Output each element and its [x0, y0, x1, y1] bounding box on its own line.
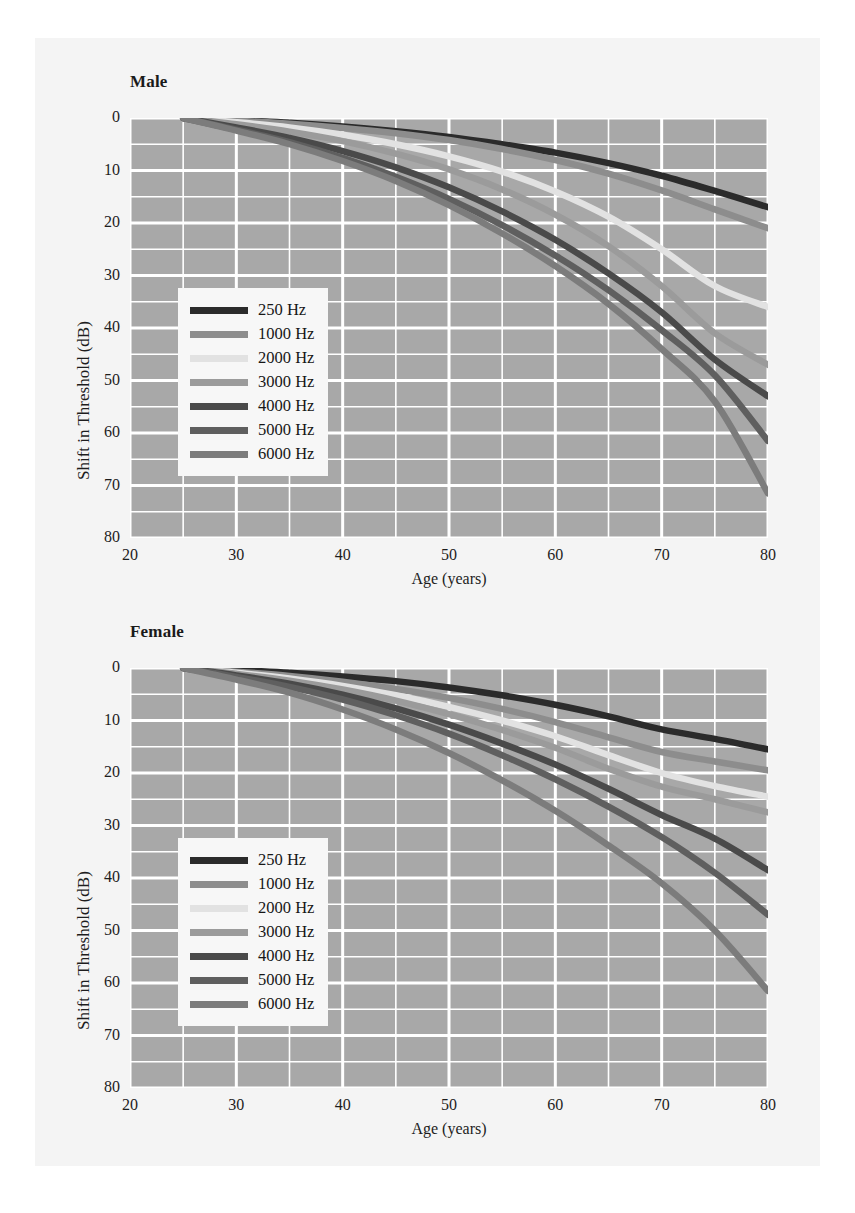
x-tick-male-3: 50: [419, 546, 479, 564]
legend-swatch-male-2: [190, 355, 248, 362]
x-axis-label-female: Age (years): [349, 1120, 549, 1138]
legend-label-male-4: 4000 Hz: [258, 398, 314, 415]
y-tick-female-2: 20: [68, 763, 120, 781]
legend-label-female-5: 5000 Hz: [258, 972, 314, 989]
legend-label-female-2: 2000 Hz: [258, 900, 314, 917]
x-tick-male-4: 60: [525, 546, 585, 564]
legend-item-female-3: 3000 Hz: [190, 920, 314, 944]
x-tick-male-2: 40: [313, 546, 373, 564]
legend-label-female-6: 6000 Hz: [258, 996, 314, 1013]
x-tick-male-0: 20: [100, 546, 160, 564]
legend-swatch-female-6: [190, 1001, 248, 1008]
x-tick-female-6: 80: [738, 1096, 798, 1114]
legend-swatch-female-1: [190, 881, 248, 888]
x-tick-female-0: 20: [100, 1096, 160, 1114]
legend-label-female-1: 1000 Hz: [258, 876, 314, 893]
x-tick-female-2: 40: [313, 1096, 373, 1114]
legend-item-male-4: 4000 Hz: [190, 394, 314, 418]
y-tick-female-0: 0: [68, 658, 120, 676]
legend-label-female-0: 250 Hz: [258, 852, 306, 869]
legend-swatch-male-6: [190, 451, 248, 458]
legend-swatch-female-3: [190, 929, 248, 936]
panel-title-female: Female: [130, 622, 184, 642]
legend-item-female-4: 4000 Hz: [190, 944, 314, 968]
y-tick-male-1: 10: [68, 161, 120, 179]
legend-item-male-5: 5000 Hz: [190, 418, 314, 442]
legend-label-male-5: 5000 Hz: [258, 422, 314, 439]
y-tick-male-5: 50: [68, 371, 120, 389]
legend-item-male-2: 2000 Hz: [190, 346, 314, 370]
legend-label-male-6: 6000 Hz: [258, 446, 314, 463]
legend-swatch-female-0: [190, 857, 248, 864]
legend-item-female-2: 2000 Hz: [190, 896, 314, 920]
x-tick-female-1: 30: [206, 1096, 266, 1114]
legend-label-male-2: 2000 Hz: [258, 350, 314, 367]
legend-item-male-6: 6000 Hz: [190, 442, 314, 466]
legend-swatch-male-4: [190, 403, 248, 410]
panel-title-male: Male: [130, 72, 168, 92]
y-tick-male-0: 0: [68, 108, 120, 126]
legend-swatch-female-2: [190, 905, 248, 912]
legend-item-male-3: 3000 Hz: [190, 370, 314, 394]
y-tick-female-5: 50: [68, 921, 120, 939]
y-tick-male-6: 60: [68, 423, 120, 441]
legend-swatch-male-1: [190, 331, 248, 338]
y-tick-female-6: 60: [68, 973, 120, 991]
legend-label-female-3: 3000 Hz: [258, 924, 314, 941]
legend-label-male-3: 3000 Hz: [258, 374, 314, 391]
y-tick-female-8: 80: [68, 1078, 120, 1096]
y-tick-male-8: 80: [68, 528, 120, 546]
legend-label-female-4: 4000 Hz: [258, 948, 314, 965]
y-tick-male-4: 40: [68, 318, 120, 336]
x-tick-female-4: 60: [525, 1096, 585, 1114]
x-tick-female-5: 70: [632, 1096, 692, 1114]
legend-label-male-1: 1000 Hz: [258, 326, 314, 343]
x-axis-label-male: Age (years): [349, 570, 549, 588]
y-axis-label-male: Shift in Threshold (dB): [74, 321, 94, 480]
legend-swatch-male-0: [190, 307, 248, 314]
figure-caption: [60, 1196, 820, 1210]
legend-swatch-female-5: [190, 977, 248, 984]
legend-female: 250 Hz1000 Hz2000 Hz3000 Hz4000 Hz5000 H…: [178, 838, 328, 1026]
figure-page: Male Shift in Threshold (dB) Age (years)…: [0, 0, 855, 1213]
legend-item-female-6: 6000 Hz: [190, 992, 314, 1016]
legend-male: 250 Hz1000 Hz2000 Hz3000 Hz4000 Hz5000 H…: [178, 288, 328, 476]
x-tick-male-5: 70: [632, 546, 692, 564]
y-axis-label-female: Shift in Threshold (dB): [74, 871, 94, 1030]
legend-label-male-0: 250 Hz: [258, 302, 306, 319]
y-tick-female-1: 10: [68, 711, 120, 729]
legend-swatch-male-5: [190, 427, 248, 434]
x-tick-male-1: 30: [206, 546, 266, 564]
legend-item-female-5: 5000 Hz: [190, 968, 314, 992]
legend-swatch-female-4: [190, 953, 248, 960]
y-tick-female-7: 70: [68, 1026, 120, 1044]
y-tick-female-4: 40: [68, 868, 120, 886]
legend-item-male-0: 250 Hz: [190, 298, 314, 322]
x-tick-female-3: 50: [419, 1096, 479, 1114]
legend-item-female-0: 250 Hz: [190, 848, 314, 872]
legend-item-female-1: 1000 Hz: [190, 872, 314, 896]
y-tick-female-3: 30: [68, 816, 120, 834]
x-tick-male-6: 80: [738, 546, 798, 564]
y-tick-male-7: 70: [68, 476, 120, 494]
y-tick-male-3: 30: [68, 266, 120, 284]
legend-swatch-male-3: [190, 379, 248, 386]
legend-item-male-1: 1000 Hz: [190, 322, 314, 346]
y-tick-male-2: 20: [68, 213, 120, 231]
